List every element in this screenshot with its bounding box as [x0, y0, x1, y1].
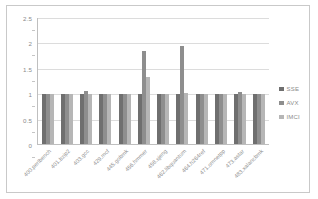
y-axis-tick-label: 1.5	[23, 65, 32, 72]
bar-group	[57, 18, 76, 144]
y-axis-tick-label: 2.5	[23, 15, 32, 22]
chart-legend: SSEAVXIMCI	[279, 82, 315, 124]
bar-group	[38, 18, 57, 144]
bar-imci	[223, 94, 227, 144]
legend-swatch-icon	[279, 101, 284, 106]
y-axis-tickmark	[32, 106, 35, 107]
x-axis-tick-slot: 483.xalancbmk	[251, 146, 270, 194]
y-axis-tickmark	[32, 30, 35, 31]
legend-entry-avx[interactable]: AVX	[279, 96, 315, 110]
bar-imci	[146, 77, 150, 144]
bar-imci	[261, 94, 265, 144]
x-axis: 400.perlbench401.bzip2403.gcc429.mcf445.…	[38, 146, 270, 194]
y-axis-tickmark	[32, 55, 35, 56]
y-axis-tick-label: 0.5	[23, 116, 32, 123]
x-axis-tick-slot: 429.mcf	[96, 146, 115, 194]
plot-area	[37, 18, 269, 145]
bar-imci	[107, 94, 111, 144]
x-axis-tick-label: 400.perlbench	[22, 148, 52, 178]
legend-swatch-icon	[279, 115, 284, 120]
legend-entry-sse[interactable]: SSE	[279, 82, 315, 96]
y-axis-tick-label: 0	[28, 142, 32, 149]
legend-label: AVX	[287, 100, 299, 106]
x-axis-line	[37, 144, 269, 145]
y-axis-tickmark	[32, 132, 35, 133]
bar-group	[173, 18, 192, 144]
bar-group	[231, 18, 250, 144]
bar-imci	[88, 94, 92, 144]
x-axis-tick-slot: 456.hmmer	[135, 146, 154, 194]
y-axis: 00.511.522.5	[7, 18, 35, 145]
bar-imci	[242, 94, 246, 144]
bar-imci	[69, 94, 73, 144]
x-axis-tick-slot: 400.perlbench	[38, 146, 57, 194]
bar-series-container	[38, 18, 269, 144]
y-axis-tickmark	[32, 81, 35, 82]
bar-imci	[204, 94, 208, 144]
legend-swatch-icon	[279, 87, 284, 92]
x-axis-tick-slot: 401.bzip2	[57, 146, 76, 194]
bar-group	[96, 18, 115, 144]
x-axis-tick-slot: 471.omnetpp	[212, 146, 231, 194]
chart-frame: 00.511.522.5 400.perlbench401.bzip2403.g…	[6, 5, 310, 193]
y-axis-tickmark	[32, 157, 35, 158]
bar-group	[192, 18, 211, 144]
bar-imci	[165, 94, 169, 144]
bar-imci	[50, 94, 54, 144]
bar-group	[77, 18, 96, 144]
y-axis-tick-label: 2	[28, 40, 32, 47]
legend-entry-imci[interactable]: IMCI	[279, 110, 315, 124]
bar-group	[115, 18, 134, 144]
bar-group	[154, 18, 173, 144]
legend-label: IMCI	[287, 114, 300, 120]
bar-imci	[184, 93, 188, 144]
bar-group	[211, 18, 230, 144]
x-axis-tick-slot: 403.gcc	[77, 146, 96, 194]
y-axis-tick-label: 1	[28, 91, 32, 98]
legend-label: SSE	[287, 86, 300, 92]
bar-group	[250, 18, 269, 144]
bar-imci	[127, 94, 131, 144]
bar-group	[134, 18, 153, 144]
